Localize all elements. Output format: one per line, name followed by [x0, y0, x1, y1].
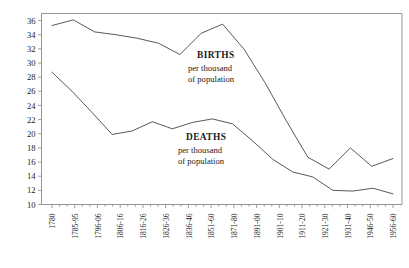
- annotation-deaths: DEATHS per thousand of population: [178, 132, 226, 166]
- chart-container: 1012141618202224262830323436 17801785-95…: [0, 0, 409, 268]
- annotation-births-line3: of population: [188, 74, 235, 84]
- x-tick-label: 1956-60: [389, 213, 398, 239]
- y-tick-label: 30: [27, 58, 36, 68]
- x-tick-label: 1785-95: [71, 213, 80, 239]
- x-axis-ticks: [52, 205, 393, 209]
- y-tick-label: 26: [27, 86, 36, 96]
- y-tick-label: 36: [27, 16, 36, 26]
- y-tick-label: 12: [27, 185, 36, 195]
- y-tick-label: 18: [27, 143, 36, 153]
- y-tick-label: 34: [27, 30, 36, 40]
- annotation-deaths-line2: per thousand: [178, 145, 223, 155]
- x-tick-label: 1826-36: [162, 213, 171, 239]
- annotation-births-title: BIRTHS: [197, 50, 235, 60]
- y-axis-ticks: [38, 21, 42, 205]
- x-tick-label: 1806-16: [116, 213, 125, 239]
- x-tick-label: 1891-00: [253, 213, 262, 239]
- birth-death-rate-line-chart: 1012141618202224262830323436 17801785-95…: [0, 0, 409, 268]
- x-tick-label: 1946-50: [366, 213, 375, 239]
- x-tick-label: 1851-60: [207, 213, 216, 239]
- annotation-births-line2: per thousand: [188, 63, 233, 73]
- plot-frame: [42, 14, 403, 205]
- x-tick-label: 1836-46: [185, 213, 194, 239]
- x-tick-label: 1871-80: [230, 213, 239, 239]
- y-tick-label: 16: [27, 157, 36, 167]
- x-tick-label: 1911-20: [298, 213, 307, 238]
- x-tick-label: 1796-06: [94, 213, 103, 239]
- y-tick-label: 28: [27, 72, 36, 82]
- annotation-births: BIRTHS per thousand of population: [188, 50, 235, 84]
- x-tick-label: 1931-40: [344, 213, 353, 239]
- annotation-deaths-title: DEATHS: [186, 132, 226, 142]
- x-axis-labels: 17801785-951796-061806-161816-261826-361…: [48, 213, 398, 239]
- y-tick-label: 20: [27, 129, 36, 139]
- y-tick-label: 22: [27, 115, 36, 125]
- y-tick-label: 24: [27, 101, 36, 111]
- x-tick-label: 1780: [48, 213, 57, 228]
- y-tick-label: 14: [27, 171, 36, 181]
- y-axis-labels: 1012141618202224262830323436: [27, 16, 36, 210]
- y-tick-label: 10: [27, 200, 36, 210]
- y-tick-label: 32: [27, 44, 36, 54]
- x-tick-label: 1816-26: [139, 213, 148, 239]
- x-tick-label: 1921-30: [321, 213, 330, 239]
- annotation-deaths-line3: of population: [178, 156, 225, 166]
- series-line-births: [52, 20, 393, 169]
- x-tick-label: 1901-10: [276, 213, 285, 239]
